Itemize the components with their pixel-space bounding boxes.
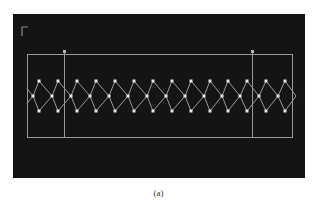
lattice-node-middle — [184, 95, 187, 98]
lattice-edge — [172, 81, 185, 96]
lattice-edge — [228, 96, 240, 111]
lattice-edge — [52, 81, 58, 96]
lattice-edge — [185, 96, 191, 111]
lattice-node-middle — [277, 95, 280, 98]
lattice-node-top — [171, 80, 174, 83]
lattice-edge — [228, 81, 240, 96]
lattice-node-bottom — [227, 110, 230, 113]
lattice-edge — [222, 96, 228, 111]
lattice-node-middle — [108, 95, 111, 98]
lattice-edge — [52, 96, 58, 111]
figure-caption: (a) — [0, 188, 317, 198]
lattice-edge — [71, 96, 77, 111]
marker-handle-icon — [251, 50, 254, 53]
lattice-node-top — [227, 80, 230, 83]
lattice-node-top — [38, 80, 41, 83]
lattice-node-middle — [127, 95, 130, 98]
lattice-edge — [147, 96, 153, 111]
lattice-edge — [96, 96, 109, 111]
lattice-node-top — [152, 80, 155, 83]
lattice-edge — [285, 96, 296, 111]
lattice-node-bottom — [76, 110, 79, 113]
lattice-edge — [115, 96, 128, 111]
lattice-edge — [134, 96, 147, 111]
lattice-edge — [90, 81, 96, 96]
lattice-node-bottom — [284, 110, 287, 113]
lattice-node-bottom — [114, 110, 117, 113]
lattice-edge — [172, 96, 185, 111]
lattice-edge — [240, 96, 247, 111]
lattice-node-middle — [89, 95, 92, 98]
lattice-edge — [210, 96, 222, 111]
lattice-edge — [259, 96, 266, 111]
lattice-edge — [96, 81, 109, 96]
lattice-edge — [191, 81, 204, 96]
lattice-edge — [33, 81, 39, 96]
lattice-node-bottom — [209, 110, 212, 113]
lattice-edge — [259, 81, 266, 96]
lattice-node-middle — [258, 95, 261, 98]
lattice-edge — [115, 81, 128, 96]
lattice-node-top — [190, 80, 193, 83]
lattice-edge — [222, 81, 228, 96]
lattice-edge — [153, 96, 166, 111]
corner-mark-icon — [22, 27, 28, 36]
lattice-edge — [278, 96, 285, 111]
lattice-edge — [90, 96, 96, 111]
lattice-edge — [285, 81, 296, 96]
lattice-node-middle — [221, 95, 224, 98]
lattice-edge — [240, 81, 247, 96]
lattice-node-bottom — [38, 110, 41, 113]
lattice-edge — [128, 81, 134, 96]
lattice-node-middle — [32, 95, 35, 98]
lattice-node-bottom — [57, 110, 60, 113]
lattice-node-top — [95, 80, 98, 83]
lattice-edge — [109, 81, 115, 96]
lattice-node-bottom — [152, 110, 155, 113]
lattice-edge — [210, 81, 222, 96]
lattice-node-top — [133, 80, 136, 83]
lattice-node-top — [284, 80, 287, 83]
lattice-node-top — [114, 80, 117, 83]
lattice-node-middle — [70, 95, 73, 98]
lattice-edge — [166, 96, 172, 111]
lattice-edge — [266, 81, 278, 96]
lattice-node-top — [265, 80, 268, 83]
lattice-edge — [128, 96, 134, 111]
lattice-node-middle — [203, 95, 206, 98]
lattice-edge — [204, 96, 210, 111]
lattice-node-middle — [239, 95, 242, 98]
lattice-node-bottom — [133, 110, 136, 113]
lattice-node-top — [246, 80, 249, 83]
lattice-node-bottom — [265, 110, 268, 113]
lattice-edge — [278, 81, 285, 96]
lattice-node-top — [209, 80, 212, 83]
lattice-node-middle — [51, 95, 54, 98]
lattice-edge — [71, 81, 77, 96]
marker-handle-icon — [63, 50, 66, 53]
lattice-edge — [77, 96, 90, 111]
lattice-node-middle — [146, 95, 149, 98]
lattice-edge — [134, 81, 147, 96]
lattice-edge — [39, 81, 52, 96]
lattice-node-bottom — [246, 110, 249, 113]
lattice-edge — [166, 81, 172, 96]
lattice-node-bottom — [95, 110, 98, 113]
lattice-edge — [204, 81, 210, 96]
lattice-edge — [39, 96, 52, 111]
lattice-edge — [153, 81, 166, 96]
lattice-edge — [77, 81, 90, 96]
lattice-edge — [266, 96, 278, 111]
lattice-node-bottom — [171, 110, 174, 113]
lattice-node-bottom — [190, 110, 193, 113]
lattice-edge — [33, 96, 39, 111]
lattice-edge — [191, 96, 204, 111]
lattice-node-top — [76, 80, 79, 83]
lattice-edge — [185, 81, 191, 96]
lattice-node-top — [57, 80, 60, 83]
lattice-edge — [147, 81, 153, 96]
lattice-node-middle — [165, 95, 168, 98]
lattice-diagram — [0, 0, 317, 209]
lattice-edge — [109, 96, 115, 111]
